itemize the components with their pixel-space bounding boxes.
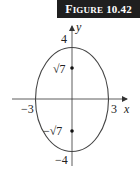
x-neg-tick-label: −3 xyxy=(21,102,34,116)
x-pos-tick-label: 3 xyxy=(111,102,117,116)
y-bottom-tick-label: −4 xyxy=(55,153,68,167)
focus-top-label: √7 xyxy=(53,62,66,76)
focus-top-point xyxy=(70,66,74,70)
x-axis-label: x xyxy=(123,102,130,116)
ellipse-diagram: y x 4 −4 −3 3 √7 −√7 xyxy=(0,0,140,170)
focus-bottom-point xyxy=(70,129,74,133)
focus-bottom-label: −√7 xyxy=(43,124,62,138)
y-top-tick-label: 4 xyxy=(61,32,67,46)
y-axis-label: y xyxy=(75,20,82,34)
